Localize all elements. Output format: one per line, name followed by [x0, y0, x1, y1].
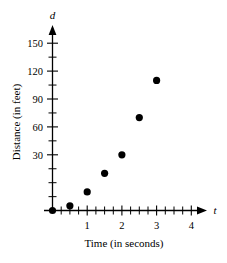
data-point [49, 207, 56, 214]
data-point [101, 170, 108, 177]
data-point [84, 188, 91, 195]
y-axis-tick-labels: 150 120 90 60 30 [27, 38, 43, 161]
scatter-plot-figure: 150 120 90 60 30 1 2 3 4 d t Distance (i… [0, 0, 227, 263]
x-tick-label: 1 [85, 220, 90, 231]
x-axis-title: Time (in seconds) [84, 237, 163, 250]
y-axis-title: Distance (in feet) [10, 83, 23, 160]
y-axis-variable-label: d [50, 9, 56, 21]
y-tick-label: 90 [33, 94, 44, 105]
chart-canvas: 150 120 90 60 30 1 2 3 4 d t Distance (i… [0, 0, 227, 263]
y-axis-arrowhead [49, 25, 57, 35]
x-axis-tick-labels: 1 2 3 4 [85, 220, 195, 231]
x-axis-arrowhead [197, 207, 207, 215]
data-point [118, 151, 125, 158]
x-axis-variable-label: t [213, 204, 217, 216]
y-tick-label: 150 [27, 38, 43, 49]
x-tick-label: 4 [189, 220, 195, 231]
y-tick-label: 30 [33, 150, 44, 161]
y-tick-label: 120 [27, 66, 43, 77]
x-tick-label: 2 [119, 220, 124, 231]
y-tick-label: 60 [33, 122, 44, 133]
data-point [136, 114, 143, 121]
x-tick-label: 3 [154, 220, 159, 231]
data-points-group [49, 77, 160, 214]
data-point [153, 77, 160, 84]
data-point [66, 202, 73, 209]
